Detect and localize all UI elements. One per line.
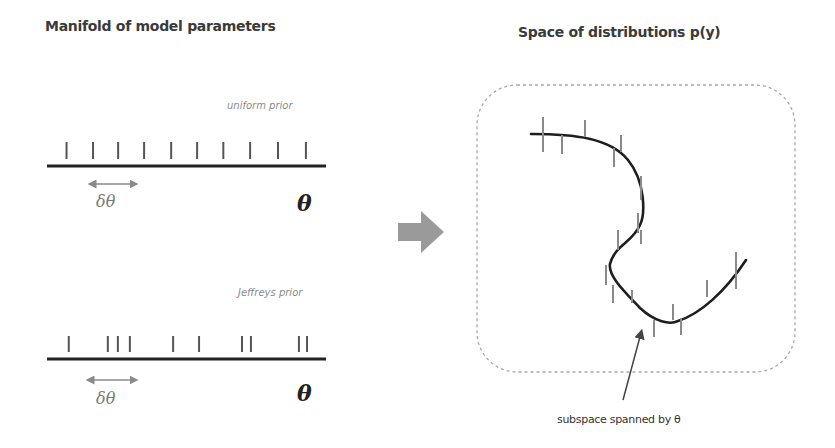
- jeffreys-prior-axis: [47, 336, 326, 380]
- caption-pointer-arrow-icon: [623, 333, 641, 400]
- right-arrow-icon: [398, 211, 444, 253]
- uniform-ticks: [67, 142, 306, 159]
- diagram-canvas: [0, 0, 835, 448]
- distribution-space-boundary: [477, 85, 795, 372]
- uniform-prior-axis: [47, 142, 326, 184]
- jeffreys-ticks: [69, 336, 307, 352]
